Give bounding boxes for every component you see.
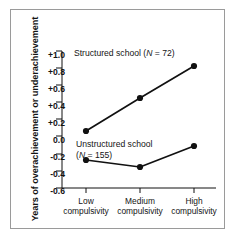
data-point bbox=[137, 95, 143, 101]
data-point bbox=[191, 143, 197, 149]
data-point bbox=[137, 164, 143, 170]
chart-figure: Years of overachievement or underachieve… bbox=[0, 0, 234, 237]
data-point bbox=[83, 157, 89, 163]
data-point bbox=[191, 63, 197, 69]
y-axis-ticks bbox=[56, 51, 62, 188]
series-unstructured-school bbox=[83, 143, 197, 170]
data-point bbox=[83, 128, 89, 134]
x-axis-ticks bbox=[86, 188, 194, 193]
series-structured-school bbox=[83, 63, 197, 134]
plot-area bbox=[0, 0, 234, 237]
